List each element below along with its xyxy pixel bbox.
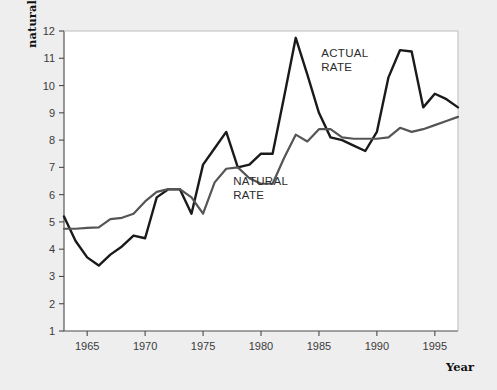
y-tick-label: 2 xyxy=(49,298,55,310)
y-tick-label: 9 xyxy=(49,107,55,119)
y-tick-label: 10 xyxy=(43,80,55,92)
y-tick-label: 7 xyxy=(49,161,55,173)
y-tick-label: 8 xyxy=(49,134,55,146)
line-chart-plot: 123456789101112 196519701975198019851990… xyxy=(18,12,480,374)
chart-inner: Actual and natural unemployment rates (p… xyxy=(18,12,480,374)
y-tick-label: 6 xyxy=(49,189,55,201)
y-tick-label: 1 xyxy=(49,325,55,337)
x-tick-label: 1975 xyxy=(191,340,215,352)
chart-figure: Actual and natural unemployment rates (p… xyxy=(0,0,497,390)
y-axis-ticks: 123456789101112 xyxy=(43,25,64,337)
x-tick-label: 1990 xyxy=(365,340,389,352)
x-tick-label: 1985 xyxy=(307,340,331,352)
y-tick-label: 3 xyxy=(49,270,55,282)
y-tick-label: 12 xyxy=(43,25,55,37)
x-tick-label: 1970 xyxy=(133,340,157,352)
y-tick-label: 5 xyxy=(49,216,55,228)
x-tick-label: 1965 xyxy=(75,340,99,352)
y-tick-label: 4 xyxy=(49,243,55,255)
x-axis-label: Year xyxy=(446,360,474,374)
x-tick-label: 1995 xyxy=(423,340,447,352)
x-axis-ticks: 1965197019751980198519901995 xyxy=(75,331,447,352)
y-tick-label: 11 xyxy=(44,52,55,64)
x-tick-label: 1980 xyxy=(249,340,273,352)
